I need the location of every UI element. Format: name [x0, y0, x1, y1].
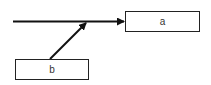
arrow-from-b — [50, 23, 86, 59]
node-b: b — [15, 59, 89, 80]
node-a: a — [125, 11, 200, 32]
node-b-label: b — [49, 64, 55, 75]
node-a-label: a — [160, 16, 166, 27]
